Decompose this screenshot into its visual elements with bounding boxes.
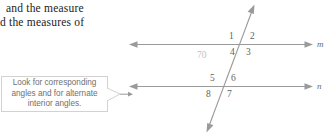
angle-label-2: 2: [250, 31, 255, 41]
parallel-lines-transversal-svg: [0, 0, 326, 138]
angle-label-4: 4: [230, 47, 235, 57]
geometry-figure: 1 2 3 4 70 5 6 7 8 m n: [0, 0, 326, 138]
angle-label-5: 5: [210, 73, 215, 83]
arrow-left-line-n-icon: [129, 83, 138, 89]
angle-label-3: 3: [246, 47, 251, 57]
arrow-up-transversal-icon: [248, 5, 255, 15]
line-name-m: m: [317, 39, 324, 49]
arrow-left-line-m-icon: [129, 41, 138, 47]
arrow-right-line-m-icon: [305, 41, 314, 47]
angle-label-8: 8: [206, 89, 211, 99]
arrow-right-line-n-icon: [305, 83, 314, 89]
angle-label-1: 1: [229, 31, 234, 41]
arrow-down-transversal-icon: [207, 123, 214, 133]
angle-label-6: 6: [231, 73, 236, 83]
line-name-n: n: [317, 81, 322, 91]
given-angle-label: 70: [197, 50, 207, 60]
line-m: [129, 41, 313, 47]
line-n: [129, 83, 313, 89]
angle-label-7: 7: [227, 89, 232, 99]
transversal-line: [207, 5, 255, 133]
